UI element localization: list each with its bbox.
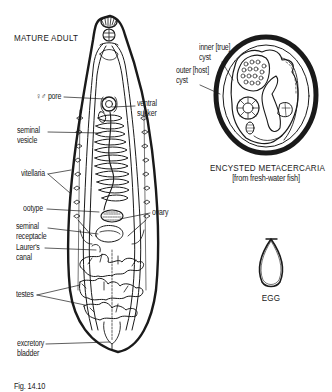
label-seminal-vesicle: seminal vesicle <box>17 126 40 145</box>
label-laurers-canal: Laurer's canal <box>16 243 40 262</box>
label-seminal-receptacle-line2: receptacle <box>16 232 47 242</box>
adult-panel-title: MATURE ADULT <box>14 32 78 43</box>
label-testes: testes <box>16 290 34 300</box>
figure-caption: Fig. 14.10 <box>14 382 45 392</box>
uterus-coils <box>95 112 129 210</box>
ovary <box>101 210 123 222</box>
label-vitellaria: vitellaria <box>21 169 45 179</box>
label-ovary: ovary <box>152 208 168 218</box>
label-laurers-canal-line2: canal <box>16 253 40 263</box>
egg-panel-title: EGG <box>253 292 289 303</box>
label-inner-cyst: inner [true] cyst <box>199 43 230 62</box>
label-excretory-bladder-line2: bladder <box>17 349 44 359</box>
label-seminal-vesicle-line2: vesicle <box>17 136 40 146</box>
metacercaria-panel-title: ENCYSTED METACERCARIA <box>210 162 322 173</box>
metacercaria-cyst <box>216 37 316 153</box>
laurers-canal <box>92 244 100 252</box>
oral-sucker <box>100 17 118 46</box>
label-ventral-sucker: ventral sucker <box>137 99 157 118</box>
label-outer-cyst-line2: cyst <box>176 76 209 86</box>
label-seminal-receptacle: seminal receptacle <box>16 222 47 241</box>
seminal-receptacle <box>96 225 123 242</box>
label-genital-pore: ♀♂ pore <box>36 92 61 102</box>
ventral-sucker <box>101 97 117 112</box>
label-ootype: ootype <box>23 204 43 214</box>
egg-drawing <box>260 239 283 287</box>
label-inner-cyst-line2: cyst <box>199 53 230 63</box>
label-excretory-bladder: excretory bladder <box>17 339 44 358</box>
label-ventral-sucker-line2: sucker <box>137 109 157 119</box>
metacercaria-panel-subtitle: [from fresh-water fish] <box>212 174 320 184</box>
label-outer-cyst: outer [host] cyst <box>176 66 209 85</box>
